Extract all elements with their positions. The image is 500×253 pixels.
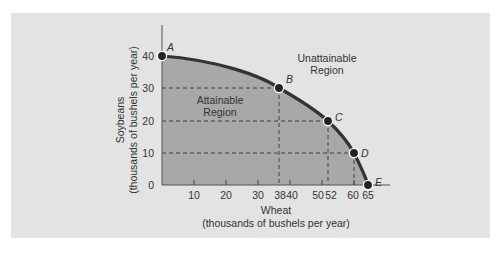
y-axis-title: Soybeans bbox=[114, 97, 126, 144]
x-tick-20: 20 bbox=[220, 189, 232, 201]
attainable-label-line1: Attainable bbox=[197, 94, 244, 106]
ppf-chart: A B C D E 40 30 20 10 0 10 20 30 38 40 5… bbox=[0, 0, 500, 253]
y-tick-10: 10 bbox=[142, 147, 154, 159]
y-tick-20: 20 bbox=[142, 115, 154, 127]
point-a[interactable] bbox=[157, 51, 166, 60]
x-axis-subtitle: (thousands of bushels per year) bbox=[202, 217, 350, 229]
y-axis-subtitle: (thousands of bushels per year) bbox=[127, 46, 139, 194]
x-tick-40: 40 bbox=[286, 189, 298, 201]
x-tick-10: 10 bbox=[188, 189, 200, 201]
x-tick-38: 38 bbox=[274, 189, 286, 201]
point-d[interactable] bbox=[349, 148, 358, 157]
point-b[interactable] bbox=[274, 83, 283, 92]
y-tick-40: 40 bbox=[142, 50, 154, 62]
point-c[interactable] bbox=[323, 116, 332, 125]
x-tick-52: 52 bbox=[325, 189, 337, 201]
x-tick-65: 65 bbox=[362, 189, 374, 201]
point-label-c: C bbox=[335, 111, 343, 123]
unattainable-label-line1: Unattainable bbox=[298, 52, 357, 64]
x-tick-30: 30 bbox=[252, 189, 264, 201]
unattainable-label-line2: Region bbox=[310, 64, 343, 76]
x-tick-60: 60 bbox=[347, 189, 359, 201]
point-label-b: B bbox=[286, 73, 293, 85]
y-tick-30: 30 bbox=[142, 82, 154, 94]
point-label-a: A bbox=[166, 41, 174, 53]
point-label-e: E bbox=[375, 176, 383, 188]
x-tick-50: 50 bbox=[312, 189, 324, 201]
point-label-d: D bbox=[361, 147, 369, 159]
x-axis-title: Wheat bbox=[261, 204, 291, 216]
y-tick-0: 0 bbox=[148, 179, 154, 191]
attainable-label-line2: Region bbox=[203, 106, 236, 118]
